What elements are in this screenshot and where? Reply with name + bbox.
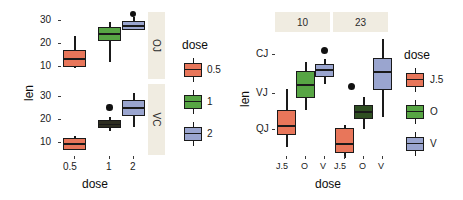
legend-key-median — [406, 143, 424, 144]
right-x-axis-title: dose — [315, 177, 341, 191]
box-median — [63, 58, 86, 60]
left-x-tick-05: 0.5 — [63, 161, 77, 172]
box-outlier — [130, 11, 136, 17]
left-legend-label-2: 2 — [207, 128, 213, 139]
left-x-tick-mark — [133, 156, 134, 159]
right-legend: dose J.5 O V — [404, 48, 459, 153]
right-x-tick-mark — [324, 156, 325, 159]
right-x-tick-1: J.5 — [276, 161, 288, 171]
right-x-tick-3: V — [320, 161, 326, 171]
box-median — [373, 71, 392, 73]
left-y-tick-mark — [58, 20, 61, 21]
box-median — [277, 125, 296, 127]
right-strip-10: 10 — [275, 12, 330, 32]
box-median — [335, 143, 354, 145]
left-legend: dose 0.5 1 2 — [182, 38, 232, 143]
right-legend-label-o: O — [430, 106, 438, 117]
box-10-j5 — [277, 110, 296, 135]
right-strip-23-label: 23 — [333, 12, 388, 32]
left-legend-title: dose — [182, 38, 208, 52]
right-x-tick-4: J.5 — [334, 161, 346, 171]
right-strip-23: 23 — [333, 12, 388, 32]
left-y-tick-mark — [58, 43, 61, 44]
right-x-tick-mark — [286, 156, 287, 159]
box-median — [354, 111, 373, 113]
right-y-tick-bottom: QJ — [256, 123, 269, 134]
box-median — [98, 33, 121, 35]
left-y-tick-mark — [58, 96, 61, 97]
right-y-axis-title: len — [238, 84, 252, 114]
left-y-tick-mark — [58, 142, 61, 143]
left-y-tick-mark — [58, 119, 61, 120]
legend-key-median — [406, 111, 424, 112]
right-y-tick-mark — [272, 93, 275, 94]
left-legend-label-1: 1 — [207, 96, 213, 107]
box-outlier — [321, 47, 328, 54]
right-x-tick-mark — [382, 156, 383, 159]
box-median — [122, 107, 145, 109]
left-y-tick-10-vc: 10 — [40, 136, 51, 147]
box-23-v — [373, 58, 392, 90]
left-strip-oj-label: OJ — [123, 37, 190, 54]
right-x-tick-6: V — [378, 161, 384, 171]
legend-key-median — [184, 133, 202, 134]
left-y-tick-mark — [58, 66, 61, 67]
left-x-axis-title: dose — [82, 177, 108, 191]
legend-key-median — [184, 69, 202, 70]
left-strip-vc: VC — [148, 84, 165, 155]
left-x-tick-1: 1 — [106, 161, 112, 172]
left-y-tick-10-oj: 10 — [40, 60, 51, 71]
boxplot-figure: len 30 20 10 30 20 10 — [0, 0, 463, 200]
right-legend-label-j5: J.5 — [430, 74, 443, 85]
left-x-tick-2: 2 — [130, 161, 136, 172]
right-legend-title: dose — [404, 48, 430, 62]
right-y-tick-mark — [272, 129, 275, 130]
box-outlier — [106, 104, 113, 111]
right-x-tick-mark — [305, 156, 306, 159]
legend-key-median — [184, 101, 202, 102]
right-y-tick-top: CJ — [256, 48, 268, 59]
right-y-tick-mid: VJ — [256, 87, 268, 98]
right-y-tick-mark — [272, 54, 275, 55]
right-x-tick-mark — [363, 156, 364, 159]
box-median — [315, 69, 334, 71]
box-23-j5 — [335, 128, 354, 153]
box-median — [296, 84, 315, 86]
right-strip-10-label: 10 — [275, 12, 330, 32]
box-outlier — [348, 83, 355, 90]
left-y-tick-20-oj: 20 — [40, 37, 51, 48]
right-x-tick-5: O — [359, 161, 366, 171]
left-strip-oj: OJ — [148, 12, 165, 79]
left-x-tick-mark — [109, 156, 110, 159]
right-legend-label-v: V — [430, 138, 437, 149]
box-median — [63, 143, 86, 145]
left-y-tick-30-oj: 30 — [40, 14, 51, 25]
right-x-tick-mark — [344, 156, 345, 159]
left-y-axis-title: len — [22, 78, 36, 108]
legend-key-median — [406, 79, 424, 80]
box-median — [98, 124, 121, 126]
right-x-tick-2: O — [301, 161, 308, 171]
left-y-tick-30-vc: 30 — [40, 90, 51, 101]
box-median — [122, 25, 145, 27]
left-y-tick-20-vc: 20 — [40, 113, 51, 124]
left-legend-label-05: 0.5 — [207, 64, 221, 75]
left-x-tick-mark — [74, 156, 75, 159]
